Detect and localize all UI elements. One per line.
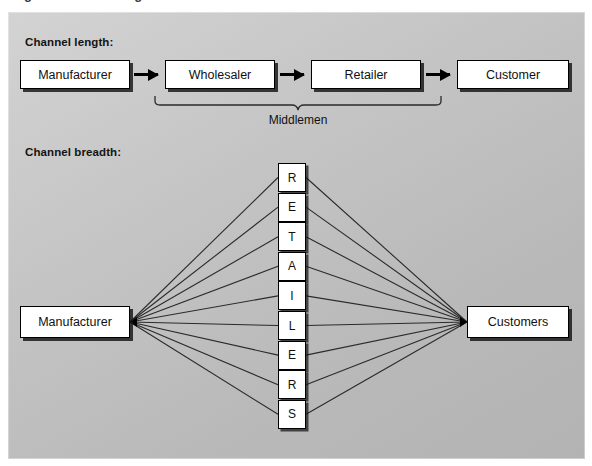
link-retailer-to-customers	[306, 322, 467, 326]
link-manufacturer-to-retailer	[130, 322, 278, 326]
node-label: Customers	[488, 315, 548, 329]
retailer-letter-box: E	[278, 341, 306, 370]
clipped-caption-strip: Figure 8.1 Marketing channel structures	[0, 0, 592, 9]
retailer-letter-box: T	[278, 222, 306, 251]
link-manufacturer-to-retailer	[130, 207, 278, 322]
retailer-letter: L	[289, 319, 296, 333]
link-manufacturer-to-retailer	[130, 266, 278, 322]
node-customer: Customer	[457, 60, 569, 89]
retailer-letter-box: E	[278, 193, 306, 222]
link-retailer-to-customers	[306, 322, 467, 385]
link-retailer-to-customers	[306, 266, 467, 322]
retailer-letter: R	[288, 378, 297, 392]
node-label: Wholesaler	[189, 68, 252, 82]
middlemen-bracket	[153, 96, 443, 111]
retailer-letter-box: I	[278, 281, 306, 310]
link-manufacturer-to-retailer	[130, 322, 278, 414]
retailer-letter-box: R	[278, 370, 306, 399]
node-manufacturer-breadth: Manufacturer	[20, 306, 130, 338]
retailer-letter-box: A	[278, 252, 306, 281]
retailer-letter: E	[288, 348, 296, 362]
retailer-letter-box: S	[278, 400, 306, 429]
link-retailer-to-customers	[306, 207, 467, 322]
retailer-letter-box: R	[278, 163, 306, 192]
arrow-retailer-to-customer	[426, 73, 450, 76]
link-retailer-to-customers	[306, 322, 467, 355]
node-manufacturer-length: Manufacturer	[20, 60, 130, 89]
node-wholesaler: Wholesaler	[165, 60, 275, 89]
node-label: Retailer	[344, 68, 387, 82]
retailer-letter-box: L	[278, 311, 306, 340]
node-label: Customer	[486, 68, 540, 82]
retailer-letter: T	[288, 230, 295, 244]
link-manufacturer-to-retailer	[130, 322, 278, 355]
retailer-letter: A	[288, 259, 296, 273]
retailer-letter: I	[290, 289, 293, 303]
middlemen-bracket-svg	[153, 96, 443, 111]
link-manufacturer-to-retailer	[130, 322, 278, 385]
node-customers: Customers	[467, 306, 569, 338]
retailer-letter: E	[288, 200, 296, 214]
link-retailer-to-customers	[306, 322, 467, 414]
node-label: Manufacturer	[38, 315, 112, 329]
clipped-caption-text: Figure 8.1 Marketing channel structures	[12, 0, 266, 2]
diagram-panel: Channel length: Manufacturer Wholesaler …	[8, 12, 585, 459]
retailer-letter: S	[288, 407, 296, 421]
node-retailer: Retailer	[311, 60, 421, 89]
retailer-letter: R	[288, 171, 297, 185]
arrow-manufacturer-to-wholesaler	[134, 73, 158, 76]
node-label: Manufacturer	[38, 68, 112, 82]
arrow-wholesaler-to-retailer	[280, 73, 304, 76]
